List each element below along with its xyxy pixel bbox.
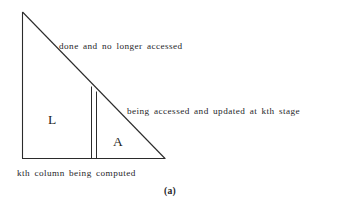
annotation-done-label: done and no longer accessed [59, 42, 183, 51]
region-label-l: L [48, 113, 57, 127]
region-label-a: A [113, 135, 123, 149]
figure-part-caption: (a) [0, 186, 340, 196]
annotation-kth-column-label: kth column being computed [17, 169, 136, 178]
figure-container: done and no longer accessed being access… [0, 0, 340, 211]
annotation-accessed-label: being accessed and updated at kth stage [127, 107, 300, 116]
triangle-hypotenuse [23, 12, 166, 159]
